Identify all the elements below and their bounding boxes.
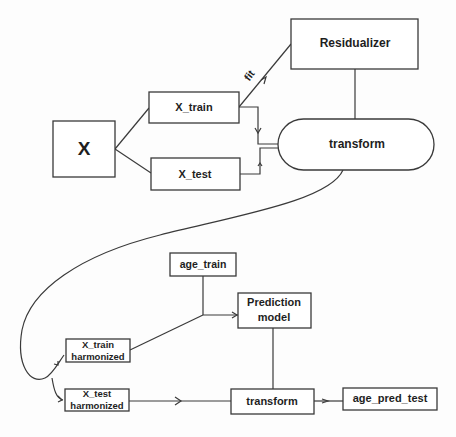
node-x-train-harmonized-line1: X_train	[82, 339, 114, 350]
edge-x-to-x-test	[115, 149, 151, 173]
node-x-train-label: X_train	[175, 101, 213, 113]
node-age-train[interactable]: age_train	[170, 253, 236, 276]
node-age-pred-test[interactable]: age_pred_test	[343, 388, 437, 410]
node-transform-bottom-label: transform	[246, 395, 298, 407]
edge-to-x-test-harmonized	[52, 378, 63, 400]
arrow-to-x-train-harmonized-icon	[54, 361, 58, 365]
edge-x-test-to-transform	[240, 148, 279, 174]
node-age-train-label: age_train	[180, 258, 227, 270]
node-x-train[interactable]: X_train	[149, 92, 239, 123]
node-prediction-model[interactable]: Prediction model	[238, 293, 311, 328]
pipeline-diagram: X X_train X_test Residualizer transform …	[0, 0, 456, 437]
node-x-test-label: X_test	[178, 168, 211, 180]
node-age-pred-test-label: age_pred_test	[353, 392, 428, 404]
node-prediction-model-line1: Prediction	[247, 296, 301, 308]
node-transform-top-label: transform	[329, 137, 385, 151]
edge-label-fit: fit	[241, 67, 257, 83]
node-x-test-harmonized[interactable]: X_test harmonized	[65, 388, 129, 411]
node-x-train-harmonized-line2: harmonized	[71, 351, 125, 362]
node-prediction-model-line2: model	[258, 311, 290, 323]
edge-x-to-x-train	[115, 108, 149, 149]
node-x-train-harmonized[interactable]: X_train harmonized	[66, 339, 130, 362]
node-transform-top[interactable]: transform	[278, 119, 434, 170]
node-x-test-harmonized-line1: X_test	[83, 388, 112, 399]
node-residualizer-label: Residualizer	[320, 36, 391, 50]
node-x-label: X	[78, 138, 91, 159]
node-x-test-harmonized-line2: harmonized	[70, 400, 124, 411]
edge-x-train-harmonized-to-junction	[130, 315, 203, 350]
edge-x-train-to-transform	[239, 107, 279, 144]
fit-arrow-icon	[261, 77, 266, 84]
node-x[interactable]: X	[53, 121, 115, 177]
node-residualizer[interactable]: Residualizer	[291, 19, 418, 69]
node-transform-bottom[interactable]: transform	[231, 389, 314, 414]
node-x-test[interactable]: X_test	[151, 158, 240, 190]
